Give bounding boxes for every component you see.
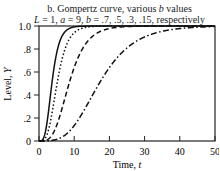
y-tick-label: 0 <box>26 136 31 147</box>
x-axis-label: Time, t <box>113 159 142 170</box>
x-tick-label: 10 <box>69 146 79 157</box>
x-tick-label: 40 <box>175 146 185 157</box>
y-tick-label: .6 <box>24 67 32 78</box>
y-tick-label: .2 <box>24 113 32 124</box>
y-tick-label: .8 <box>24 44 32 55</box>
series-line <box>39 26 215 141</box>
x-tick-label: 20 <box>104 146 114 157</box>
x-axis: 01020304050 <box>37 136 220 157</box>
plot-area: 0.2.4.6.81.0 01020304050 Level, Y Time, … <box>0 0 219 171</box>
x-tick-label: 30 <box>140 146 150 157</box>
series-line <box>39 27 215 141</box>
y-axis: 0.2.4.6.81.0 <box>19 21 40 147</box>
plot-frame <box>39 26 215 141</box>
x-tick-label: 0 <box>37 146 42 157</box>
x-tick-label: 50 <box>210 146 219 157</box>
series-line <box>39 26 215 141</box>
series-lines <box>39 26 215 141</box>
y-tick-label: .4 <box>24 90 32 101</box>
y-tick-label: 1.0 <box>19 21 32 32</box>
series-line <box>39 26 215 141</box>
y-axis-label: Level, Y <box>2 66 13 101</box>
